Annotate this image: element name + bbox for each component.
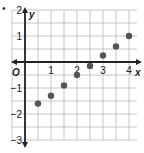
data-point [74, 72, 80, 78]
y-tick-label: −1 [11, 83, 23, 94]
y-tick-label: −2 [11, 109, 23, 120]
scatter-plot: 123421−1−2−3 y x O [0, 0, 144, 153]
data-point [100, 52, 106, 58]
y-tick-label: −3 [11, 135, 23, 146]
data-point [48, 93, 54, 99]
x-tick-label: 1 [48, 65, 54, 76]
data-point [126, 33, 132, 39]
x-tick-label: 3 [100, 65, 106, 76]
y-tick-label: 2 [16, 5, 22, 16]
tick-labels: 123421−1−2−3 [11, 5, 133, 146]
x-axis-label: x [134, 67, 141, 78]
x-tick-label: 4 [126, 65, 132, 76]
data-point [61, 82, 67, 88]
y-axis-label: y [28, 9, 35, 20]
data-point [113, 43, 119, 49]
data-point [87, 63, 93, 69]
y-tick-label: 1 [16, 31, 22, 42]
origin-label: O [12, 67, 20, 78]
data-point [35, 100, 41, 106]
